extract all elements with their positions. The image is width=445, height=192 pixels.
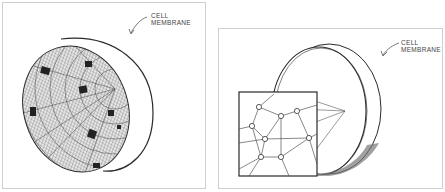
label-line2: MEMBRANE [151, 19, 191, 26]
label-line2: MEMBRANE [401, 46, 441, 53]
panel-left-hemisphere: CELL MEMBRANE [2, 2, 206, 189]
hemisphere-mesh-illustration [3, 3, 207, 190]
filament-network-illustration [219, 29, 444, 190]
magnified-inset [239, 92, 317, 176]
label-line1: CELL [401, 39, 441, 46]
cell-membrane-label-left: CELL MEMBRANE [151, 12, 191, 26]
cell-membrane-label-right: CELL MEMBRANE [401, 39, 441, 53]
panel-right-filament-network: CELL MEMBRANE [218, 28, 443, 189]
label-line1: CELL [151, 12, 191, 19]
